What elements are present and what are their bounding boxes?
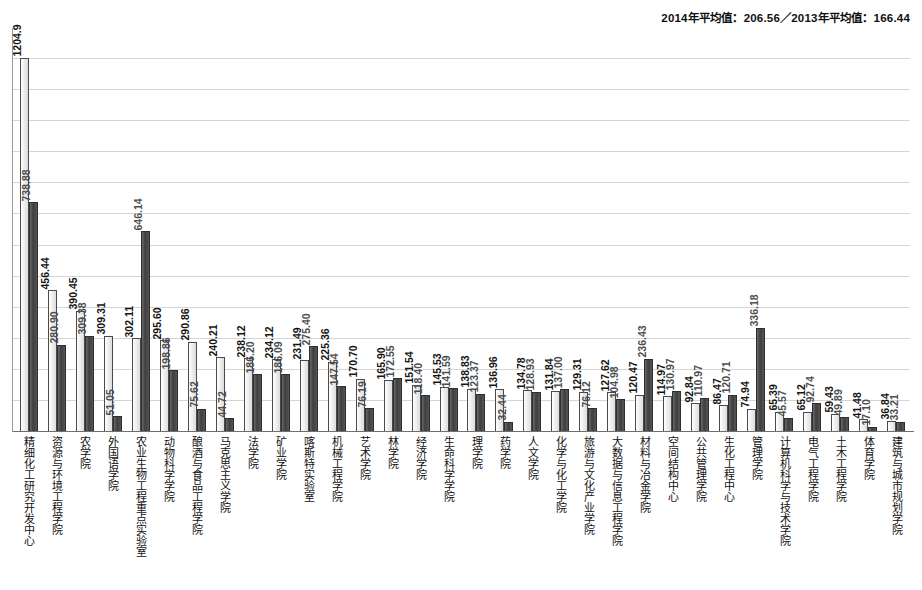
x-axis-label: 药学院 (498, 436, 509, 469)
bar-2013[interactable]: 141.59 (449, 388, 458, 432)
x-axis-label: 艺术学院 (358, 436, 369, 480)
bar-2014[interactable]: 145.53 (440, 387, 449, 432)
bar-value-label: 49.89 (832, 389, 843, 415)
bar-2013[interactable]: 44.72 (225, 418, 234, 432)
bar-2014[interactable]: 65.12 (803, 412, 812, 432)
x-label-cell: 电气工程学院 (798, 434, 826, 590)
x-axis-label: 农业生物工程重点实验室 (134, 436, 145, 557)
bar-2013[interactable]: 309.38 (85, 336, 94, 432)
bar-2014[interactable]: 165.90 (384, 380, 393, 432)
bar-2014[interactable]: 120.47 (635, 395, 644, 432)
bar-2013[interactable]: 110.97 (700, 398, 709, 432)
x-axis-label: 化学与化工学院 (554, 436, 565, 513)
bar-2013[interactable]: 128.93 (532, 392, 541, 432)
bar-value-label: 738.88 (21, 169, 32, 201)
bar-value-label: 120.47 (627, 361, 638, 393)
bar-group: 240.2144.72 (211, 28, 239, 432)
bar-2013[interactable]: 280.90 (57, 345, 66, 432)
x-label-cell: 艺术学院 (350, 434, 378, 590)
x-label-cell: 药学院 (490, 434, 518, 590)
bar-group: 390.45309.38 (71, 28, 99, 432)
bar-2013[interactable]: 51.05 (113, 416, 122, 432)
bar-2014[interactable]: 131.84 (551, 391, 560, 432)
bar-value-label: 76.19 (357, 381, 368, 407)
bar-2014[interactable]: 74.94 (747, 409, 756, 432)
x-label-cell: 公共管理学院 (686, 434, 714, 590)
x-axis-label: 马克思主义学院 (218, 436, 229, 513)
bar-2013[interactable]: 45.57 (784, 418, 793, 432)
bar-2013[interactable]: 120.71 (728, 395, 737, 433)
bar-group: 59.4349.89 (826, 28, 854, 432)
x-label-cell: 马克思主义学院 (210, 434, 238, 590)
bar-2013[interactable]: 49.89 (840, 417, 849, 433)
bar-value-label: 92.74 (804, 376, 815, 402)
bar-2013[interactable]: 336.18 (756, 328, 765, 432)
bar-2013[interactable]: 275.40 (309, 346, 318, 432)
bar-value-label: 104.98 (608, 366, 619, 398)
x-label-cell: 法学院 (238, 434, 266, 590)
bar-2013[interactable]: 186.09 (281, 374, 290, 432)
bar-2014[interactable]: 59.43 (831, 414, 840, 432)
x-label-cell: 生命科学学院 (434, 434, 462, 590)
x-axis-category-labels: 精细化工研究开发中心资源与环境工程学院农学院外国语学院农业生物工程重点实验室动物… (12, 434, 910, 590)
bar-2013[interactable]: 92.74 (812, 403, 821, 432)
bar-2014[interactable]: 92.84 (691, 403, 700, 432)
x-label-cell: 经济学院 (406, 434, 434, 590)
bar-2013[interactable]: 130.97 (672, 391, 681, 432)
bar-2013[interactable]: 172.55 (393, 378, 402, 432)
bar-2014[interactable]: 309.31 (104, 336, 113, 432)
bar-value-label: 240.21 (208, 324, 219, 356)
x-axis-label: 外国语学院 (106, 436, 117, 491)
bar-2013[interactable]: 147.54 (337, 386, 346, 432)
bar-chart-figure: 2014年平均值：206.56／2013年平均值：166.44 1204.973… (0, 0, 922, 590)
x-label-cell: 喀斯特实验室 (294, 434, 322, 590)
bar-2014[interactable]: 231.49 (300, 360, 309, 432)
bar-value-label: 32.44 (496, 395, 507, 421)
x-axis-label: 经济学院 (414, 436, 425, 480)
x-label-cell: 生化工程中心 (714, 434, 742, 590)
bar-value-label: 33.21 (888, 394, 899, 420)
bar-2014[interactable]: 114.97 (663, 396, 672, 432)
bar-value-label: 76.12 (580, 381, 591, 407)
bar-2013[interactable]: 186.20 (253, 374, 262, 432)
bar-2013[interactable]: 738.88 (29, 202, 38, 432)
bar-2013[interactable]: 137.00 (560, 389, 569, 432)
bar-2014[interactable]: 302.11 (132, 338, 141, 432)
x-label-cell: 精细化工研究开发中心 (14, 434, 42, 590)
x-axis-label: 酿酒与食品工程学院 (190, 436, 201, 535)
bar-2013[interactable]: 198.86 (169, 370, 178, 432)
x-axis-label: 公共管理学院 (694, 436, 705, 502)
x-label-cell: 管理学院 (742, 434, 770, 590)
bar-2013[interactable]: 646.14 (141, 231, 150, 432)
x-axis-label: 计算机科学与技术学院 (778, 436, 789, 546)
x-axis-label: 生命科学学院 (442, 436, 453, 502)
bar-group: 41.4817.10 (854, 28, 882, 432)
x-axis-label: 空间结构中心 (666, 436, 677, 502)
bar-2013[interactable]: 76.19 (365, 408, 374, 432)
bar-2013[interactable]: 104.98 (616, 399, 625, 432)
bar-2014[interactable]: 138.83 (467, 389, 476, 432)
bar-group: 302.11646.14 (127, 28, 155, 432)
bar-2013[interactable]: 123.37 (476, 394, 485, 432)
x-label-cell: 材料与冶金学院 (630, 434, 658, 590)
bar-2014[interactable]: 134.78 (523, 390, 532, 432)
bar-value-label: 44.72 (217, 391, 228, 417)
bar-group: 65.3945.57 (770, 28, 798, 432)
x-axis-label: 理学院 (470, 436, 481, 469)
bar-value-label: 302.11 (124, 306, 135, 338)
bar-2013[interactable]: 76.12 (588, 408, 597, 432)
bar-2014[interactable]: 86.47 (719, 405, 728, 432)
bar-2013[interactable]: 236.43 (644, 359, 653, 432)
plot-area: 1204.9738.88456.44280.90390.45309.38309.… (12, 28, 910, 432)
x-axis-label: 精细化工研究开发中心 (22, 436, 33, 546)
bar-value-label: 141.59 (441, 355, 452, 387)
bar-2013[interactable]: 118.40 (421, 395, 430, 432)
bar-group: 456.44280.90 (43, 28, 71, 432)
x-axis-label: 林学院 (386, 436, 397, 469)
bar-group: 86.47120.71 (714, 28, 742, 432)
bar-value-label: 456.44 (40, 257, 51, 289)
x-label-cell: 化学与化工学院 (546, 434, 574, 590)
bar-2014[interactable]: 1204.9 (20, 58, 29, 432)
bar-2013[interactable]: 75.62 (197, 409, 206, 433)
bar-group: 74.94336.18 (742, 28, 770, 432)
